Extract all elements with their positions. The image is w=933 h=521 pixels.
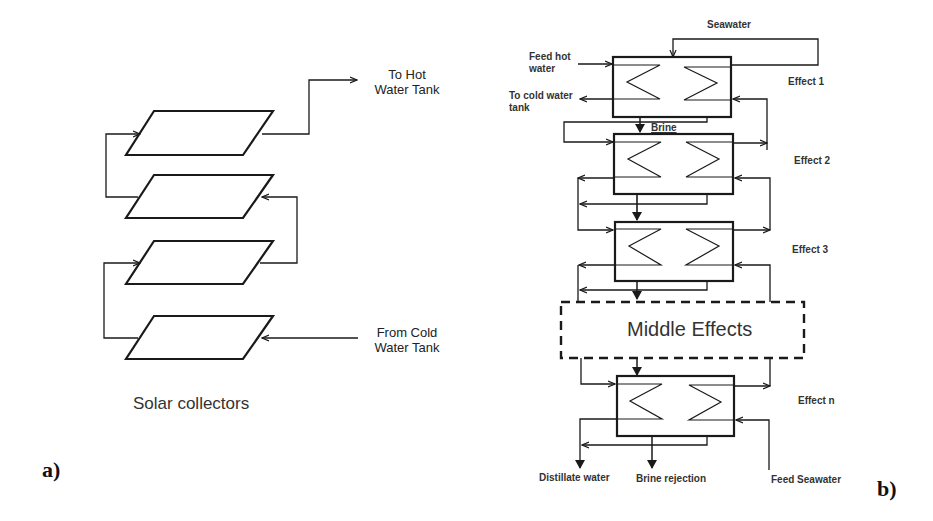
label-brine-rejection: Brine rejection xyxy=(636,473,706,485)
effect-2-box xyxy=(614,134,733,194)
label-feed-hot-line-1: Feed hot xyxy=(529,51,571,63)
pipe-middle-left-down xyxy=(581,358,615,384)
label-brine: Brine xyxy=(651,122,677,134)
pipe-effect3-right-return xyxy=(735,265,770,302)
label-effect-n: Effect n xyxy=(798,395,835,407)
label-to-hot-line-1: To Hot xyxy=(365,68,449,83)
pipe-distillate-out xyxy=(580,419,617,468)
label-from-cold-line-1: From Cold xyxy=(365,326,449,341)
label-seawater: Seawater xyxy=(707,19,751,31)
label-distillate-water: Distillate water xyxy=(539,472,610,484)
panel-b-med-system xyxy=(561,39,818,470)
pipe-feed-seawater xyxy=(736,420,769,470)
label-to-hot-water-tank: To Hot Water Tank xyxy=(365,68,449,98)
solar-collector-2 xyxy=(126,175,273,218)
label-effect-1: Effect 1 xyxy=(788,76,824,88)
solar-collector-3 xyxy=(126,241,273,284)
label-effect-2: Effect 2 xyxy=(794,155,830,167)
pipe-effect2-distillate xyxy=(580,194,707,204)
effect-3-box xyxy=(615,222,733,281)
label-from-cold-line-2: Water Tank xyxy=(365,341,449,356)
label-to-cold-line-2: tank xyxy=(509,102,573,114)
panel-b-tag: b) xyxy=(877,476,897,502)
label-effect-3: Effect 3 xyxy=(792,244,828,256)
label-from-cold-water-tank: From Cold Water Tank xyxy=(365,326,449,356)
pipe-to-hot-water-tank xyxy=(262,80,357,134)
label-to-cold-line-1: To cold water xyxy=(509,90,573,102)
effect-1-box xyxy=(613,57,731,117)
pipe-effectn-distillate-loop xyxy=(582,436,707,445)
panel-a-title: Solar collectors xyxy=(133,394,249,414)
pipe-effect3-distillate xyxy=(580,281,707,290)
label-to-cold-water-tank: To cold water tank xyxy=(509,90,573,113)
label-feed-hot-water: Feed hot water xyxy=(529,51,571,74)
panel-a-solar-collectors xyxy=(104,80,358,359)
solar-collector-4 xyxy=(126,316,273,359)
label-to-hot-line-2: Water Tank xyxy=(365,83,449,98)
pipe-effect2-right-return xyxy=(735,178,770,230)
solar-collector-1 xyxy=(126,111,273,155)
label-middle-effects: Middle Effects xyxy=(627,318,752,341)
panel-a-tag: a) xyxy=(42,457,60,483)
label-feed-seawater: Feed Seawater xyxy=(771,474,841,486)
label-feed-hot-line-2: water xyxy=(529,63,571,75)
